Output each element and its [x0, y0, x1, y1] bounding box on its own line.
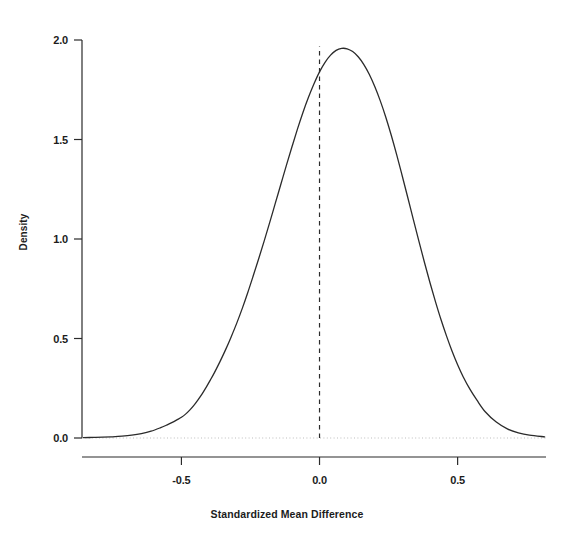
x-tick-label: -0.5 [172, 474, 190, 486]
y-tick-label: 2.0 [34, 34, 68, 46]
y-axis-title: Density [18, 214, 29, 251]
x-tick-label: 0.0 [312, 474, 327, 486]
axis-lines [82, 40, 546, 457]
x-axis-ticks [181, 457, 457, 465]
density-plot-figure: 0.00.51.01.52.0 -0.50.00.5 Density Stand… [0, 0, 574, 547]
density-curve [83, 48, 544, 437]
y-tick-label: 0.0 [34, 432, 68, 444]
chart-canvas [0, 0, 574, 547]
y-tick-label: 1.5 [34, 134, 68, 146]
x-tick-label: 0.5 [450, 474, 465, 486]
y-tick-label: 1.0 [34, 233, 68, 245]
x-axis-title: Standardized Mean Difference [0, 508, 574, 520]
y-tick-label: 0.5 [34, 333, 68, 345]
y-axis-ticks [74, 40, 82, 438]
